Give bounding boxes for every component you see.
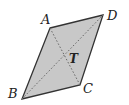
- vertex-label-B: B: [7, 86, 18, 101]
- parallelogram-diagram: A D C B T: [0, 0, 129, 105]
- vertex-label-A: A: [40, 12, 50, 27]
- center-label-T: T: [69, 52, 79, 66]
- vertex-label-C: C: [83, 81, 93, 96]
- vertex-label-D: D: [106, 8, 118, 23]
